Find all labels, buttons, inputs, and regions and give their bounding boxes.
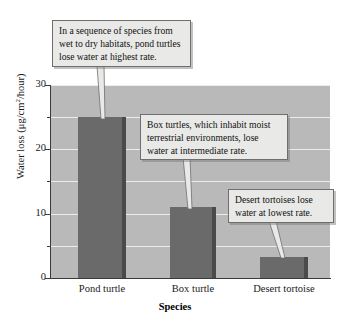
bar-chart-figure: 30 20 10 0 Water loss (μg/cm2/hour) Pond…	[0, 0, 350, 332]
callout-desert-tortoise-line1: Desert tortoises lose	[235, 194, 327, 207]
callout-box-turtle-line1: Box turtles, which inhabit moist	[147, 119, 281, 132]
pointer-box-turtle	[183, 157, 192, 209]
pointer-pond-turtle	[97, 66, 105, 119]
callout-box-turtle-line3: water at intermediate rate.	[147, 145, 281, 158]
callout-pond-turtle-line3: lose water at highest rate.	[59, 51, 184, 64]
callout-box-turtle-line2: terrestrial environments, lose	[147, 132, 281, 145]
callout-desert-tortoise[interactable]: Desert tortoises lose water at lowest ra…	[228, 189, 334, 223]
callout-pond-turtle-line1: In a sequence of species from	[59, 25, 184, 38]
callout-desert-tortoise-line2: water at lowest rate.	[235, 207, 327, 220]
callout-pond-turtle-line2: wet to dry habitats, pond turtles	[59, 38, 184, 51]
pointer-desert-tortoise	[269, 221, 285, 258]
callout-pond-turtle[interactable]: In a sequence of species from wet to dry…	[52, 20, 191, 67]
callout-box-turtle[interactable]: Box turtles, which inhabit moist terrest…	[140, 114, 288, 160]
